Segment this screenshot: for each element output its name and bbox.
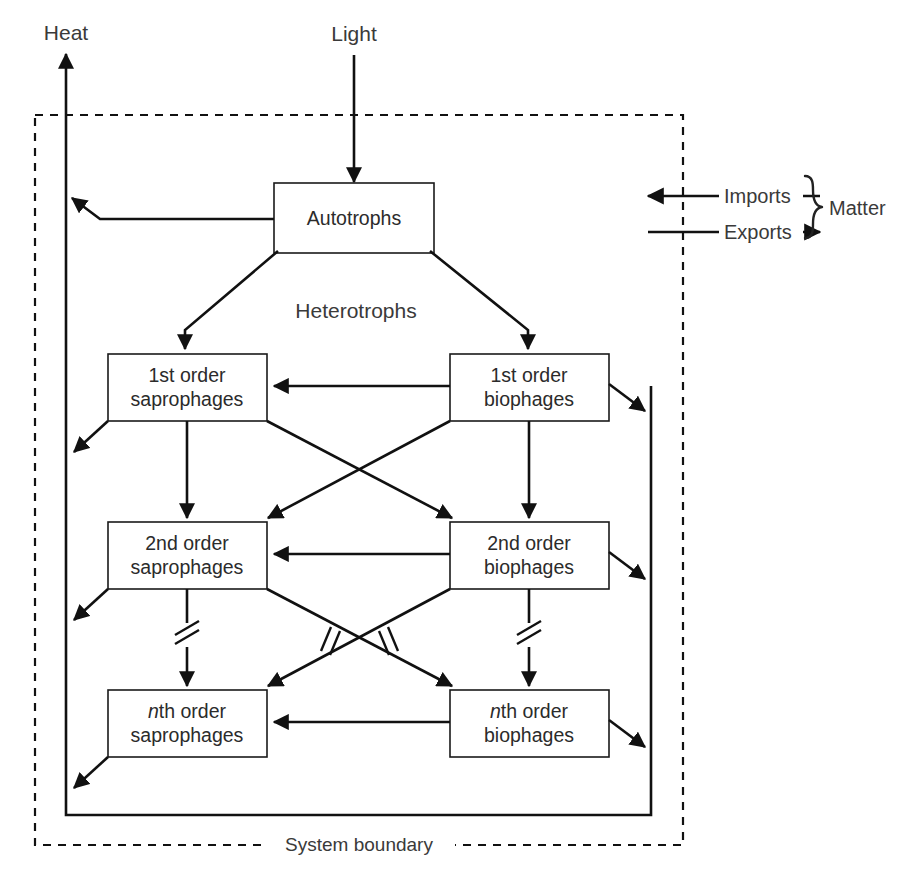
legend-imports-label-top: Imports (724, 185, 791, 207)
autotrophs-heat-arrow (72, 198, 274, 219)
bio2-export-arrow (609, 552, 645, 579)
bioN-export-arrow (609, 720, 645, 747)
box-bioN-label-line2: biophages (484, 724, 574, 746)
box-sapro1-label-line2: saprophages (131, 388, 244, 410)
autotrophs-to-bio1-arrow (430, 251, 528, 349)
legend-matter-brace (805, 176, 822, 238)
heat-label: Heat (44, 21, 89, 44)
break-mark-sapro-column (174, 621, 200, 647)
bio1-export-arrow (609, 384, 645, 411)
diagram-canvas: System boundary Heat Light Autotrophs He… (0, 0, 910, 877)
box-sapro1-label-line1: 1st order (149, 364, 226, 386)
autotrophs-to-sapro1-arrow (185, 251, 278, 349)
saproN-order-text: th order (159, 700, 227, 722)
ecosystem-energy-flow-diagram: System boundary Heat Light Autotrophs He… (0, 0, 910, 877)
break-mark-diagonal-left (321, 627, 340, 655)
sapro1-heat-arrow (74, 421, 108, 452)
box-bio1-label-line2: biophages (484, 388, 574, 410)
saproN-n-glyph: n (148, 700, 159, 722)
box-bio2-label-line1: 2nd order (487, 532, 571, 554)
sapro2-heat-arrow (74, 589, 108, 620)
box-saproN-label-line1: nth order (148, 700, 227, 722)
saproN-heat-arrow (74, 757, 108, 788)
box-bioN-label-line1: nth order (490, 700, 569, 722)
legend-matter-label: Matter (829, 197, 886, 219)
box-bio1-label-line1: 1st order (491, 364, 568, 386)
box-sapro2-label-line1: 2nd order (145, 532, 229, 554)
system-boundary-label: System boundary (285, 834, 433, 855)
box-bio2-label-line2: biophages (484, 556, 574, 578)
box-sapro2-label-line2: saprophages (131, 556, 244, 578)
break-mark-diagonal-right (379, 627, 398, 655)
bioN-n-glyph: n (490, 700, 501, 722)
legend-exports-label-top: Exports (724, 221, 792, 243)
light-label: Light (331, 22, 377, 45)
bioN-order-text: th order (501, 700, 569, 722)
heterotrophs-label: Heterotrophs (295, 299, 416, 322)
box-autotrophs-label: Autotrophs (307, 207, 402, 229)
break-mark-bio-column (516, 621, 542, 647)
box-saproN-label-line2: saprophages (131, 724, 244, 746)
